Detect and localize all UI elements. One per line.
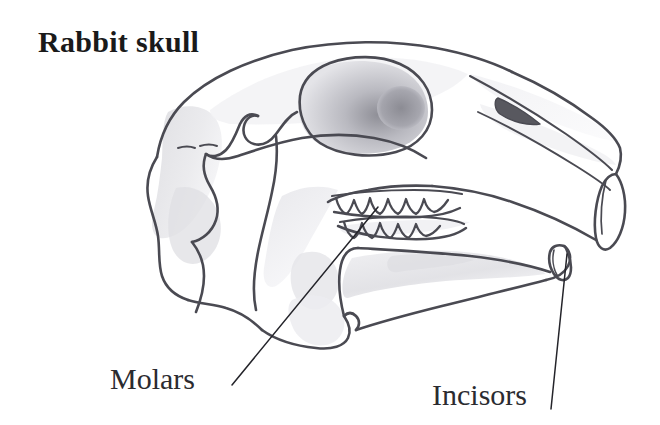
upper-molar-baseline (332, 190, 462, 196)
upper-incisor (595, 174, 625, 250)
page-title: Rabbit skull (38, 25, 199, 59)
shade-orbit-dark (377, 86, 425, 130)
label-incisors: Incisors (432, 378, 527, 412)
upper-molar-row (336, 198, 448, 214)
rabbit-skull-figure: Rabbit skull Molars Incisors (0, 0, 660, 425)
label-molars: Molars (110, 362, 195, 396)
pencil-shading (152, 57, 620, 345)
shade-mandible-ramus (288, 295, 344, 345)
skull-illustration (0, 0, 660, 425)
